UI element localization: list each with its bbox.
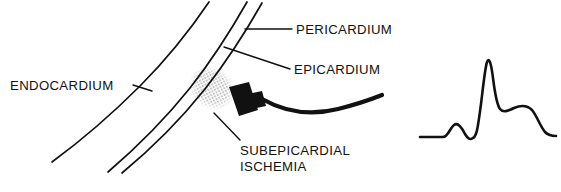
anatomy-ecg-illustration: ENDOCARDIUM PERICARDIUM EPICARDIUM SUBEP…: [0, 0, 561, 192]
ecg-waveform-trace: [420, 60, 556, 139]
diagram-figure: ENDOCARDIUM PERICARDIUM EPICARDIUM SUBEP…: [0, 0, 561, 192]
label-subepicardial-ischemia-line2: ISCHEMIA: [240, 159, 307, 174]
label-subepicardial-ischemia-line1: SUBEPICARDIAL: [240, 143, 350, 158]
label-epicardium: EPICARDIUM: [294, 62, 380, 77]
epicardium-leader-line: [224, 47, 290, 69]
label-pericardium: PERICARDIUM: [296, 22, 392, 37]
subepicardial-ischemia-leader-line: [214, 113, 240, 140]
label-endocardium: ENDOCARDIUM: [10, 78, 114, 93]
electrode-head: [229, 82, 258, 116]
electrode-cable: [262, 95, 382, 112]
